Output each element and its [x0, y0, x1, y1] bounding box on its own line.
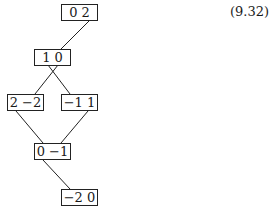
- node-0-neg1: 0 −1: [34, 143, 71, 160]
- edge-n3-n5: [16, 111, 43, 143]
- edge-n5-n6: [43, 160, 70, 189]
- equation-number: (9.32): [230, 4, 269, 19]
- edge-n2-n4: [48, 65, 70, 94]
- node-1-0: 1 0: [34, 49, 71, 66]
- node-neg2-0: −2 0: [61, 189, 98, 206]
- edge-n4-n5: [61, 111, 88, 143]
- node-2-neg2: 2 −2: [7, 94, 44, 111]
- edge-n2-n3: [35, 65, 58, 94]
- node-0-2: 0 2: [61, 4, 98, 21]
- node-neg1-1: −1 1: [61, 94, 98, 111]
- edge-n1-n2: [61, 21, 89, 49]
